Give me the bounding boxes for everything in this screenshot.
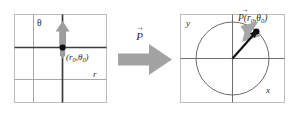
theta-axis-label: θ (37, 18, 42, 28)
right-point-label-close: ) (263, 13, 267, 24)
left-point-label-close: ) (85, 52, 89, 62)
middle-vector-label: → P (135, 22, 144, 42)
figure-container: θ r (r0,θ0) → P (0, 0, 294, 116)
left-panel-group: θ r (r0,θ0) (15, 15, 107, 103)
left-point-label: (r0,θ0) (66, 52, 89, 63)
y-axis-label: y (185, 18, 190, 28)
r-axis-label: r (93, 69, 97, 79)
right-point-marker (253, 28, 259, 34)
right-panel-group: y x → P(r0,θ0) (181, 5, 285, 103)
x-axis-label: x (265, 85, 270, 95)
polar-to-cartesian-diagram: θ r (r0,θ0) → P (0, 0, 294, 116)
block-arrow-icon (118, 44, 172, 75)
svg-text:(r0,θ0): (r0,θ0) (66, 52, 89, 63)
middle-transform-group: → P (118, 22, 172, 76)
middle-vector-letter: P (135, 30, 143, 42)
left-point-marker (60, 44, 66, 50)
